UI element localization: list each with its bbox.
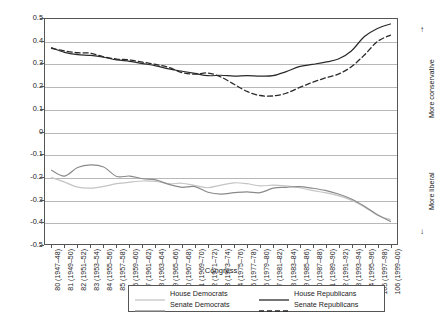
y-axis-tick-label: 0: [9, 128, 43, 135]
legend-item[interactable]: Senate Democrats: [135, 301, 230, 309]
y-axis-tick-mark: [40, 41, 44, 42]
y-axis-tick-mark: [40, 245, 44, 246]
y-axis-tick-label: -0.5: [9, 241, 43, 248]
legend-label: House Republicans: [294, 290, 356, 297]
y-axis-tick-label: -0.1: [9, 150, 43, 157]
more-liberal-arrow-icon: ↓: [420, 228, 424, 236]
y-axis-tick-label: -0.3: [9, 196, 43, 203]
plot-area: [44, 18, 398, 245]
x-axis-tick-mark: [300, 245, 301, 248]
series-line: [52, 24, 391, 76]
x-axis-tick-mark: [77, 245, 78, 248]
x-axis-tick-mark: [116, 245, 117, 248]
x-axis-tick-mark: [365, 245, 366, 248]
x-axis-tick-mark: [64, 245, 65, 248]
x-axis-tick-mark: [247, 245, 248, 248]
x-axis-tick-mark: [182, 245, 183, 248]
x-axis-tick-mark: [155, 245, 156, 248]
more-conservative-arrow-icon: ↑: [420, 26, 424, 34]
legend-label: House Democrats: [170, 290, 228, 297]
legend-label: Senate Democrats: [170, 301, 230, 308]
y-axis-tick-label: 0.5: [9, 14, 43, 21]
y-axis-tick-mark: [40, 222, 44, 223]
y-axis-tick-mark: [40, 200, 44, 201]
x-axis-title: Congress: [44, 266, 398, 275]
legend-swatch: [135, 290, 165, 298]
y-axis-tick-mark: [40, 109, 44, 110]
x-axis-tick-mark: [391, 245, 392, 248]
series-line: [52, 178, 391, 220]
y-axis-tick-label: 0.3: [9, 59, 43, 66]
y-axis-tick-mark: [40, 132, 44, 133]
legend-item[interactable]: House Republicans: [259, 290, 356, 298]
y-axis-title: Mean 1st dimension DW-Nominate score: [0, 0, 8, 14]
x-axis-tick-mark: [378, 245, 379, 248]
y-axis-tick-label: 0.4: [9, 37, 43, 44]
x-axis-tick-mark: [273, 245, 274, 248]
x-axis-tick-mark: [195, 245, 196, 248]
x-axis-tick-mark: [326, 245, 327, 248]
y-axis-tick-mark: [40, 18, 44, 19]
more-conservative-label: More conservative: [427, 59, 436, 118]
x-axis-tick-mark: [287, 245, 288, 248]
x-axis-tick-mark: [313, 245, 314, 248]
y-axis-tick-mark: [40, 86, 44, 87]
x-axis-tick-mark: [260, 245, 261, 248]
y-axis-tick-label: 0.1: [9, 105, 43, 112]
legend-swatch: [135, 301, 165, 309]
more-liberal-label: More liberal: [427, 172, 436, 210]
y-axis-tick-mark: [40, 154, 44, 155]
x-axis-tick-mark: [51, 245, 52, 248]
legend-item[interactable]: Senate Republicans: [259, 301, 358, 309]
x-axis-tick-mark: [234, 245, 235, 248]
legend: House DemocratsHouse RepublicansSenate D…: [128, 285, 385, 312]
x-axis-tick-mark: [208, 245, 209, 248]
x-axis-tick-mark: [103, 245, 104, 248]
x-axis-tick-mark: [129, 245, 130, 248]
x-axis-tick-mark: [352, 245, 353, 248]
x-axis-tick-mark: [169, 245, 170, 248]
x-axis-tick-mark: [142, 245, 143, 248]
y-axis-tick-label: -0.2: [9, 173, 43, 180]
y-axis-tick-mark: [40, 63, 44, 64]
series-line: [52, 165, 391, 222]
legend-swatch: [259, 290, 289, 298]
x-axis-tick-mark: [339, 245, 340, 248]
legend-label: Senate Republicans: [294, 301, 358, 308]
data-series-layer: [45, 19, 397, 244]
y-axis-tick-label: -0.4: [9, 218, 43, 225]
x-axis-tick-mark: [221, 245, 222, 248]
y-axis-tick-mark: [40, 177, 44, 178]
legend-item[interactable]: House Democrats: [135, 290, 228, 298]
y-axis-tick-label: 0.2: [9, 82, 43, 89]
legend-swatch: [259, 301, 289, 309]
x-axis-tick-mark: [90, 245, 91, 248]
series-line: [52, 35, 391, 96]
